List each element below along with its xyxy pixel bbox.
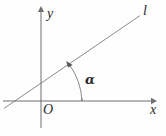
angle-alpha-label: α: [85, 73, 95, 86]
line-l-label: l: [143, 4, 147, 18]
y-axis-arrowhead-icon: [38, 6, 44, 12]
x-axis-label: x: [150, 103, 156, 117]
y-axis-label: y: [47, 7, 53, 21]
line-l-stroke: [4, 16, 140, 109]
angle-arc-path: [69, 64, 82, 101]
origin-label: O: [43, 103, 53, 117]
coordinate-diagram-svg: [0, 0, 166, 136]
figure-container: y x l O α: [0, 0, 166, 136]
